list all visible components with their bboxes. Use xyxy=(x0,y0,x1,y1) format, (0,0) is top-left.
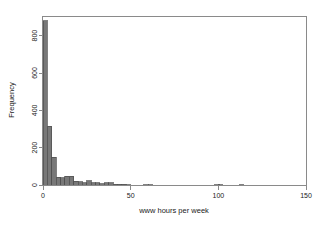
histogram-bar xyxy=(87,181,91,185)
histogram-bar xyxy=(43,21,47,185)
x-tick-label: 150 xyxy=(300,192,312,199)
y-tick-label: 200 xyxy=(31,142,38,154)
y-tick-label: 600 xyxy=(31,67,38,79)
histogram-bar xyxy=(69,176,73,185)
histogram-bar xyxy=(52,157,56,185)
figure-background xyxy=(0,0,326,228)
x-tick-label: 0 xyxy=(41,192,45,199)
histogram-bar xyxy=(61,178,65,185)
y-tick-label: 400 xyxy=(31,104,38,116)
y-tick-label: 0 xyxy=(31,183,38,187)
histogram-bar xyxy=(47,126,51,185)
x-tick-label: 100 xyxy=(212,192,224,199)
histogram-plot: 050100150 0200400600800 www hours per we… xyxy=(0,0,326,228)
y-axis-label: Frequency xyxy=(7,82,16,118)
x-axis-label: www hours per week xyxy=(138,206,209,215)
y-tick-label: 800 xyxy=(31,30,38,42)
histogram-figure: 050100150 0200400600800 www hours per we… xyxy=(0,0,326,228)
x-tick-label: 50 xyxy=(127,192,135,199)
histogram-bar xyxy=(74,181,78,185)
histogram-bar xyxy=(65,176,69,185)
histogram-bar xyxy=(56,177,60,185)
